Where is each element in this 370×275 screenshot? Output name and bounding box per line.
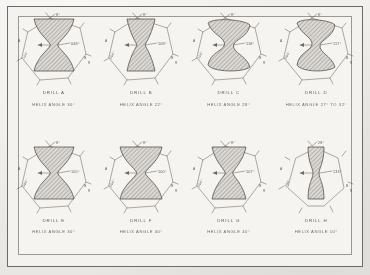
right-point-label: B [346,56,349,60]
drill-d-diagram: 8°117°A.090"BR [274,12,358,88]
helix-angle-label: HELIX ANGLE 10° [273,230,361,234]
drill-e-caption: DRILL EHELIX ANGLE 30° [10,216,98,235]
helix-angle-label: HELIX ANGLE 28° [185,103,273,107]
right-radius-callout: R [88,189,91,193]
right-radius-callout: R [263,61,266,65]
drill-section-diagram: 8°118°A.100"BR [187,12,271,88]
figure-cell-drill-b: 8°108°A.090"BRDRILL BHELIX ANGLE 22° [98,9,186,137]
drill-section-diagram: 28°133°A.060"BR [274,140,358,216]
drill-g-caption: DRILL GHELIX ANGLE 40° [185,216,273,235]
left-point-label: A [280,39,283,43]
drill-section-diagram: 8°100°A.090"BR [99,140,183,216]
left-point-label: A [193,167,196,171]
figure-cell-drill-d: 8°117°A.090"BRDRILL DHELIX ANGLE 27° TO … [273,9,361,137]
top-angle-callout: 8° [143,141,147,145]
left-dimension-callout: .090" [109,178,117,188]
figure-cell-drill-a: 8°048°A.100"BRDRILL AHELIX ANGLE 30° [10,9,98,137]
top-angle-callout: 8° [318,13,322,17]
center-angle-callout: 100° [158,170,167,174]
drill-f-caption: DRILL FHELIX ANGLE 40° [98,216,186,235]
drill-a-diagram: 8°048°A.100"BR [12,12,96,88]
top-angle-callout: 8° [143,13,147,17]
drill-section-diagram: 8°108°A.090"BR [99,12,183,88]
figure-cell-drill-e: 8°105°A.080"BRDRILL EHELIX ANGLE 30° [10,137,98,265]
drill-c-diagram: 8°118°A.100"BR [187,12,271,88]
drill-name-label: DRILL C [185,91,273,96]
drill-section-diagram: 8°107°A.090"BR [187,140,271,216]
drill-section-diagram: 8°117°A.090"BR [274,12,358,88]
drill-h-diagram: 28°133°A.060"BR [274,140,358,216]
left-point-label: A [105,167,108,171]
top-angle-callout: 28° [318,141,324,145]
drill-section-diagram: 8°105°A.080"BR [12,140,96,216]
drill-name-label: DRILL H [273,219,361,224]
top-angle-callout: 8° [231,13,235,17]
drill-name-label: DRILL D [273,91,361,96]
left-dimension-callout: .090" [109,50,117,60]
right-point-label: B [171,56,174,60]
center-angle-callout: 117° [333,42,342,46]
figure-grid: 8°048°A.100"BRDRILL AHELIX ANGLE 30°8°10… [10,9,360,264]
left-point-label: A [18,167,21,171]
right-radius-callout: R [88,61,91,65]
center-angle-callout: 107° [246,170,255,174]
drill-name-label: DRILL F [98,219,186,224]
drill-c-caption: DRILL CHELIX ANGLE 28° [185,88,273,107]
left-dimension-callout: .090" [196,178,204,188]
figure-cell-drill-f: 8°100°A.090"BRDRILL FHELIX ANGLE 40° [98,137,186,265]
helix-angle-label: HELIX ANGLE 30° [10,103,98,107]
drill-section-diagram: 8°048°A.100"BR [12,12,96,88]
top-angle-callout: 8° [56,13,60,17]
right-radius-callout: R [263,189,266,193]
right-point-label: B [84,184,87,188]
center-angle-callout: 108° [158,42,167,46]
right-radius-callout: R [350,61,353,65]
left-dimension-callout: .100" [21,50,29,60]
drawing-plate: 8°048°A.100"BRDRILL AHELIX ANGLE 30°8°10… [0,0,370,275]
center-angle-callout: 048° [71,42,80,46]
drill-h-caption: DRILL HHELIX ANGLE 10° [273,216,361,235]
drill-name-label: DRILL E [10,219,98,224]
left-dimension-callout: .100" [196,50,204,60]
center-angle-callout: 105° [71,170,80,174]
left-point-label: A [105,39,108,43]
drill-a-caption: DRILL AHELIX ANGLE 30° [10,88,98,107]
helix-angle-label: HELIX ANGLE 30° [10,230,98,234]
drill-b-caption: DRILL BHELIX ANGLE 22° [98,88,186,107]
drill-e-diagram: 8°105°A.080"BR [12,140,96,216]
left-point-label: A [280,167,283,171]
figure-cell-drill-c: 8°118°A.100"BRDRILL CHELIX ANGLE 28° [185,9,273,137]
helix-angle-label: HELIX ANGLE 40° [98,230,186,234]
figure-cell-drill-g: 8°107°A.090"BRDRILL GHELIX ANGLE 40° [185,137,273,265]
left-point-label: A [18,39,21,43]
right-radius-callout: R [350,189,353,193]
drill-name-label: DRILL B [98,91,186,96]
drill-name-label: DRILL A [10,91,98,96]
helix-angle-label: HELIX ANGLE 40° [185,230,273,234]
left-point-label: A [193,39,196,43]
right-point-label: B [346,184,349,188]
drill-name-label: DRILL G [185,219,273,224]
center-angle-callout: 133° [333,170,342,174]
center-angle-callout: 118° [246,42,255,46]
right-radius-callout: R [175,189,178,193]
helix-angle-label: HELIX ANGLE 22° [98,103,186,107]
drill-f-diagram: 8°100°A.090"BR [99,140,183,216]
right-point-label: B [171,184,174,188]
top-angle-callout: 8° [56,141,60,145]
drill-g-diagram: 8°107°A.090"BR [187,140,271,216]
right-point-label: B [84,56,87,60]
left-dimension-callout: .090" [284,50,292,60]
right-point-label: B [259,56,262,60]
left-dimension-callout: .080" [21,178,29,188]
drill-d-caption: DRILL DHELIX ANGLE 27° TO 32° [273,88,361,107]
right-radius-callout: R [175,61,178,65]
figure-cell-drill-h: 28°133°A.060"BRDRILL HHELIX ANGLE 10° [273,137,361,265]
top-angle-callout: 8° [231,141,235,145]
helix-angle-label: HELIX ANGLE 27° TO 32° [273,103,361,107]
drill-b-diagram: 8°108°A.090"BR [99,12,183,88]
right-point-label: B [259,184,262,188]
